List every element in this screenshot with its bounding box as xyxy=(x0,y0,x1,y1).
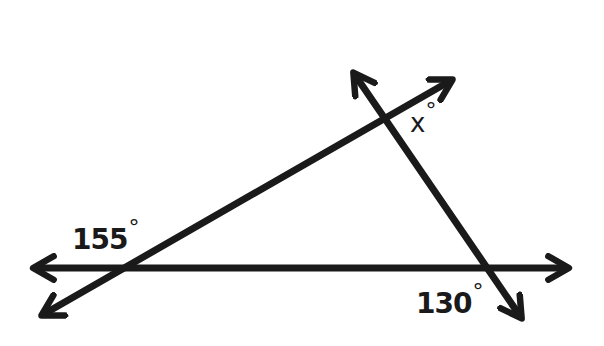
angle-variable: x xyxy=(410,108,424,138)
degree-symbol: ° xyxy=(472,279,482,304)
diagram-canvas xyxy=(0,0,604,346)
falling-line xyxy=(355,75,520,316)
degree-symbol: ° xyxy=(425,98,435,123)
angle-value: 155 xyxy=(72,223,127,256)
angle-label-130: 130° xyxy=(416,290,482,318)
triangle-angle-diagram: 155° x° 130° xyxy=(0,0,604,346)
angle-value: 130 xyxy=(416,287,471,320)
angle-label-155: 155° xyxy=(72,226,138,254)
rising-line xyxy=(44,81,450,314)
angle-label-x: x° xyxy=(410,110,435,136)
degree-symbol: ° xyxy=(128,215,138,240)
